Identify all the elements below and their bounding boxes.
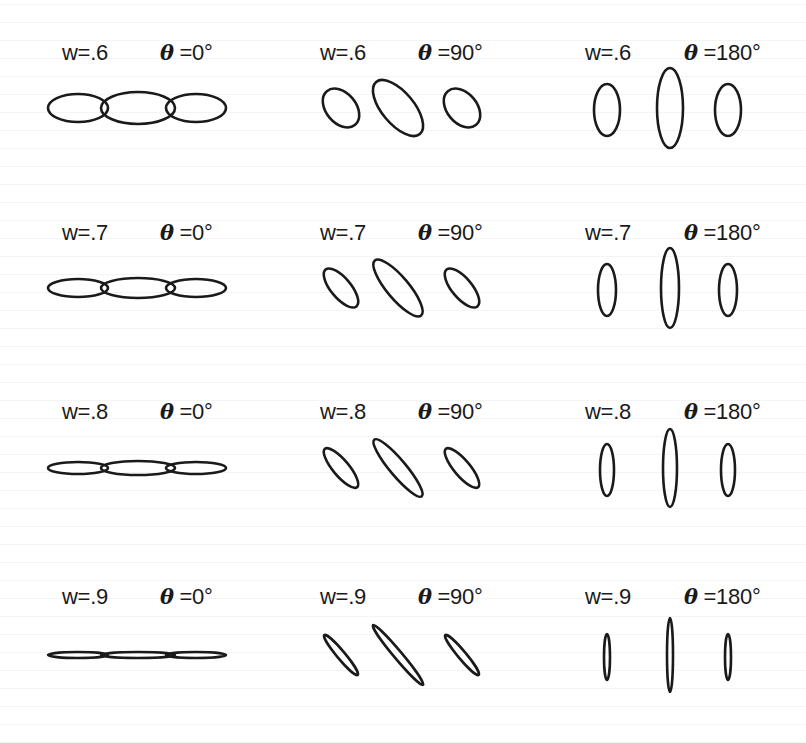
- ellipse-r4-c2-left: [321, 633, 361, 678]
- ellipse-r1-c2-center: [364, 72, 432, 145]
- ellipse-r1-c3-center: [657, 68, 683, 148]
- ellipse-grid-figure: w=.6 θ =0° w=.6 θ =90° w=.6 θ =180° w=.7…: [0, 0, 806, 743]
- ellipse-r3-c1-center: [101, 461, 175, 475]
- ellipse-r1-c1-left: [48, 94, 108, 122]
- ellipse-canvas: [0, 0, 806, 743]
- ellipse-r1-c2-right: [436, 82, 487, 135]
- ellipse-r4-c1-left: [48, 652, 108, 658]
- ellipse-r3-c2-center: [368, 435, 428, 502]
- ellipse-r4-c2-right: [442, 633, 482, 678]
- ellipse-r4-c3-right: [725, 634, 731, 680]
- ellipse-r3-c2-right: [440, 444, 484, 493]
- ellipse-r1-c2-left: [315, 82, 366, 135]
- ellipse-r3-c3-left: [600, 444, 614, 496]
- ellipse-r1-c3-right: [715, 84, 741, 136]
- ellipse-r4-c2-center: [370, 623, 426, 688]
- ellipse-r2-c2-right: [439, 263, 485, 313]
- ellipse-r1-c1-center: [101, 92, 175, 124]
- ellipse-r3-c1-left: [48, 462, 108, 474]
- ellipse-r2-c3-right: [719, 264, 737, 316]
- ellipse-r4-c3-left: [604, 634, 610, 680]
- ellipse-r2-c1-center: [101, 278, 175, 298]
- ellipse-r3-c2-left: [319, 444, 363, 493]
- ellipse-r2-c3-left: [598, 264, 616, 316]
- ellipse-r4-c1-center: [101, 652, 175, 658]
- ellipse-r2-c2-left: [318, 263, 364, 313]
- ellipse-r1-c3-left: [594, 84, 620, 136]
- ellipse-r2-c3-center: [661, 248, 679, 328]
- ellipse-r3-c3-right: [721, 444, 735, 496]
- ellipse-r3-c3-center: [663, 429, 677, 507]
- ellipse-r2-c2-center: [366, 253, 429, 322]
- ellipse-r2-c1-left: [48, 279, 108, 297]
- ellipse-r4-c3-center: [667, 618, 673, 692]
